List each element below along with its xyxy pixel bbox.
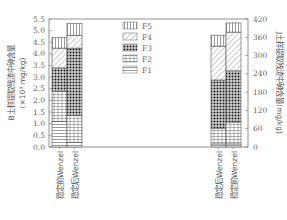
left-axis-unit: (×10³ mg/kg) (18, 58, 27, 109)
bar-segment-f2 (67, 116, 82, 143)
legend-label-f5: F5 (142, 22, 152, 31)
category-label: 稳定前Wenzel (229, 151, 239, 199)
bar-segment-f5 (67, 24, 82, 36)
stacked-bar-chart: 0.00.51.01.52.02.53.03.54.04.55.05.50601… (0, 0, 287, 220)
left-tick-label: 5.5 (33, 15, 45, 24)
bar-segment-f4 (52, 48, 67, 68)
right-tick-label: 180 (253, 88, 268, 97)
bar-segment-f5 (52, 38, 67, 48)
left-tick-label: 1.0 (33, 119, 45, 128)
category-label: 稳定前Wenzel (55, 151, 65, 199)
bar-segment-f2 (52, 91, 67, 121)
bar-segment-f3 (67, 48, 82, 115)
legend-swatch-f1 (123, 66, 137, 73)
bar-segment-f1 (226, 144, 241, 147)
bar-segment-f4 (67, 35, 82, 48)
left-tick-label: 5.0 (33, 26, 45, 35)
bar-segment-f5 (211, 35, 226, 46)
right-axis-title: J土样提取残渣中砷含量(mg/kg) (275, 31, 285, 134)
legend-swatch-f2 (123, 55, 137, 62)
bar-segment-f2 (211, 128, 226, 144)
bar-segment-f5 (226, 23, 241, 32)
bar-segment-f3 (211, 80, 226, 128)
bar-segment-f3 (226, 71, 241, 122)
bar-segment-f4 (211, 46, 226, 80)
legend-label-f2: F2 (142, 55, 152, 64)
right-tick-label: 240 (253, 69, 268, 78)
right-tick-label: 300 (253, 51, 268, 60)
bar-segment-f1 (211, 144, 226, 147)
right-tick-label: 120 (253, 106, 268, 115)
left-tick-label: 4.0 (33, 49, 45, 58)
left-tick-label: 1.5 (33, 108, 45, 117)
right-tick-label: 420 (253, 15, 268, 24)
bar-segment-f4 (226, 32, 241, 71)
bar-segment-f3 (52, 68, 67, 91)
left-tick-label: 0.0 (33, 143, 45, 152)
left-tick-label: 3.0 (33, 73, 45, 82)
legend-swatch-f5 (123, 22, 137, 29)
left-tick-label: 2.5 (33, 84, 45, 93)
left-axis-title: B土样提取残渣中砷含量 (6, 44, 16, 120)
left-tick-label: 3.5 (33, 61, 45, 70)
bar-segment-f1 (52, 121, 67, 147)
category-label: 稳定后Wenzel (70, 151, 80, 199)
right-tick-label: 60 (253, 124, 263, 133)
right-tick-label: 360 (253, 33, 268, 42)
legend-swatch-f3 (123, 44, 137, 51)
left-tick-label: 2.0 (33, 96, 45, 105)
bar-segment-f1 (67, 142, 82, 147)
legend-label-f1: F1 (142, 66, 152, 75)
legend-label-f3: F3 (142, 44, 152, 53)
category-label: 稳定后Wenzel (214, 151, 224, 199)
right-tick-label: 0 (253, 143, 258, 152)
left-tick-label: 0.5 (33, 131, 45, 140)
legend-label-f4: F4 (142, 33, 152, 42)
bar-segment-f2 (226, 122, 241, 144)
left-tick-label: 4.5 (33, 38, 45, 47)
legend-swatch-f4 (123, 33, 137, 40)
